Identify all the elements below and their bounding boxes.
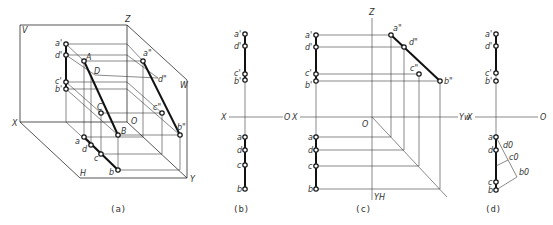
label-X: X	[466, 113, 473, 122]
label-c-prime: c'	[305, 69, 312, 78]
label-d: d	[308, 146, 314, 155]
label-A: A	[85, 53, 91, 62]
label-X: X	[220, 113, 227, 122]
label-X: X	[11, 119, 18, 128]
label-a-dprime: a"	[393, 24, 402, 33]
label-c: c	[308, 162, 313, 171]
label-b: b	[237, 185, 242, 194]
label-b: b	[109, 168, 114, 177]
label-Z: Z	[368, 8, 375, 17]
label-d-prime: d'	[305, 43, 312, 52]
w-plane	[127, 25, 187, 178]
diagonal-45	[372, 117, 447, 197]
panel-c: Z X O Yw YH a' d' c' b' a" d" c" b" a d …	[291, 8, 471, 214]
label-V: V	[22, 26, 28, 35]
label-YH: YH	[374, 193, 385, 202]
label-d-prime: d'	[234, 42, 241, 51]
label-b-prime: b'	[55, 85, 62, 94]
label-b: b	[488, 186, 493, 195]
label-a-prime: a'	[485, 30, 492, 39]
label-c-dprime: c"	[410, 64, 418, 73]
label-d: d	[488, 146, 494, 155]
label-D: D	[94, 67, 100, 76]
label-b-dprime: b"	[444, 77, 453, 86]
label-a: a	[237, 133, 242, 142]
label-b: b	[308, 185, 313, 194]
label-O: O	[362, 120, 368, 129]
label-Y: Y	[190, 175, 196, 184]
label-a-prime: a'	[305, 31, 312, 40]
label-d: d	[82, 145, 88, 154]
label-a: a	[488, 133, 493, 142]
label-a-dprime: a"	[143, 49, 152, 58]
caption-a: (a)	[110, 204, 126, 214]
label-d0: d0	[503, 141, 513, 150]
label-b-dprime: b"	[177, 123, 186, 132]
label-b-prime: b'	[485, 77, 492, 86]
label-B: B	[121, 127, 127, 136]
descriptive-geometry-figure: V W H X Y Z O a' d' c' b' A D C B a d c …	[0, 0, 553, 225]
label-a: a	[75, 137, 80, 146]
caption-b: (b)	[233, 204, 249, 214]
label-d-dprime: d"	[409, 38, 418, 47]
label-O: O	[540, 113, 546, 122]
panel-b: a' d' c' b' X O a d c b (b)	[220, 30, 290, 214]
label-Z: Z	[124, 15, 131, 24]
caption-d: (d)	[485, 204, 501, 214]
label-H: H	[80, 169, 86, 178]
v-plane	[20, 25, 127, 122]
label-c: c	[237, 161, 242, 170]
label-b0: b0	[519, 168, 529, 177]
label-X: X	[291, 113, 298, 122]
label-c0: c0	[509, 153, 519, 162]
label-W: W	[180, 81, 189, 90]
label-C: C	[97, 103, 103, 112]
label-a-prime: a'	[55, 39, 62, 48]
panel-d: a' d' c' b' X O a d c b d0 c0 b0 (d)	[466, 30, 546, 214]
label-d: d	[237, 146, 243, 155]
label-d-prime: d'	[55, 51, 62, 60]
label-c-dprime: c"	[153, 103, 161, 112]
label-a-prime: a'	[234, 30, 241, 39]
label-d-prime: d'	[485, 42, 492, 51]
label-O: O	[284, 113, 290, 122]
label-c: c	[94, 154, 99, 163]
label-d-dprime: d"	[158, 75, 167, 84]
label-b-prime: b'	[234, 77, 241, 86]
label-b-prime: b'	[305, 81, 312, 90]
panel-a: V W H X Y Z O a' d' c' b' A D C B a d c …	[11, 15, 196, 214]
label-O: O	[131, 117, 137, 126]
caption-c: (c)	[355, 204, 371, 214]
label-a: a	[308, 133, 313, 142]
